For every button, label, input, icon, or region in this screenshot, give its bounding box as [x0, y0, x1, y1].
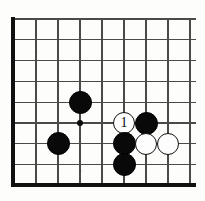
board-grid [0, 0, 205, 201]
black-stone-below-move [113, 132, 136, 155]
white-stone-far-right [157, 133, 179, 155]
white-stone-move-1: 1 [113, 112, 135, 134]
move-number-label: 1 [114, 113, 134, 133]
black-stone-upper-left-area [69, 91, 92, 114]
white-stone-center-right [135, 133, 157, 155]
go-board-diagram: 1 [0, 0, 205, 201]
black-stone-right-of-move [135, 112, 158, 135]
black-stone-lower-left-area [47, 132, 70, 155]
black-stone-bottom [113, 153, 136, 176]
